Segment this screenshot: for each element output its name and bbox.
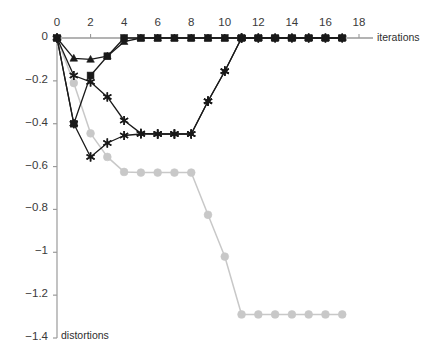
x-tick-label: 4 — [110, 16, 138, 28]
data-point-circle — [171, 169, 179, 177]
series-series-black-square — [54, 35, 346, 128]
series-line — [57, 38, 342, 134]
series-line — [57, 38, 342, 59]
series-line — [57, 38, 242, 157]
x-tick-label: 18 — [345, 16, 373, 28]
data-point-circle — [305, 311, 313, 319]
series-line — [57, 38, 342, 314]
data-point-circle — [254, 311, 262, 319]
y-tick-label: 0 — [0, 30, 48, 42]
data-point-circle — [271, 311, 279, 319]
data-point-circle — [70, 79, 78, 87]
data-point-star — [204, 97, 212, 106]
series-series-black-star-deep — [53, 33, 346, 138]
data-point-star — [221, 67, 229, 76]
y-tick-label: −1 — [0, 244, 48, 256]
data-point-circle — [154, 169, 162, 177]
data-point-circle — [87, 129, 95, 137]
series-line — [57, 38, 342, 124]
y-tick-label: −0.2 — [0, 73, 48, 85]
data-point-circle — [137, 169, 145, 177]
y-tick-label: −0.4 — [0, 116, 48, 128]
y-tick-label: −1.4 — [0, 330, 48, 342]
axes — [53, 34, 373, 338]
y-axis-label: distortions — [61, 329, 109, 341]
data-point-circle — [338, 311, 346, 319]
y-tick-label: −0.6 — [0, 159, 48, 171]
series-series-black-star-shallow — [53, 33, 246, 161]
x-axis-label: iterations — [377, 31, 420, 43]
data-point-star — [87, 152, 95, 161]
chart-svg — [0, 0, 431, 358]
data-point-circle — [204, 211, 212, 219]
y-tick-label: −1.2 — [0, 287, 48, 299]
y-tick-label: −0.8 — [0, 201, 48, 213]
data-point-star — [103, 138, 111, 147]
x-tick-label: 16 — [311, 16, 339, 28]
data-point-circle — [221, 253, 229, 261]
chart-figure: 0−0.2−0.4−0.6−0.8−1−1.2−1.40246810121416… — [0, 0, 431, 358]
series-series-gray-circle — [53, 34, 346, 318]
x-tick-label: 0 — [43, 16, 71, 28]
x-tick-label: 8 — [177, 16, 205, 28]
x-tick-label: 10 — [211, 16, 239, 28]
data-point-circle — [103, 153, 111, 161]
x-tick-label: 12 — [244, 16, 272, 28]
data-point-circle — [187, 169, 195, 177]
x-tick-label: 14 — [278, 16, 306, 28]
x-tick-label: 2 — [77, 16, 105, 28]
x-tick-label: 6 — [144, 16, 172, 28]
data-point-circle — [120, 168, 128, 176]
data-point-circle — [322, 311, 330, 319]
data-point-circle — [288, 311, 296, 319]
data-point-circle — [238, 311, 246, 319]
